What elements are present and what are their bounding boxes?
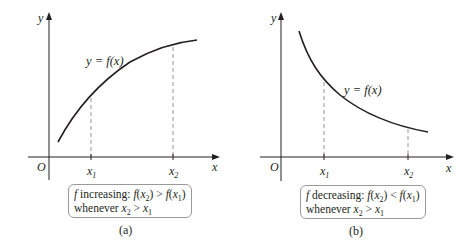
origin-label-b: O (270, 161, 279, 173)
caption-b: (b) (349, 225, 363, 237)
condition-box-a: f increasing: f(x2) > f(x1) whenever x2 … (68, 184, 192, 218)
x-axis-label-a: x (212, 161, 217, 173)
y-axis-label-a: y (38, 12, 43, 24)
decreasing-curve (299, 31, 428, 132)
increasing-curve (58, 40, 197, 142)
condition-box-b: f decreasing: f(x2) < f(x1) whenever x2 … (300, 185, 426, 219)
curve-label-b: y = f(x) (344, 84, 382, 97)
tick-x1-label-a: x1 (87, 165, 96, 177)
caption-a: (a) (119, 224, 132, 236)
tick-x2-label-b: x2 (404, 165, 413, 177)
origin-label-a: O (37, 161, 46, 173)
panel-a-graph (28, 16, 216, 180)
x-axis-label-b: x (446, 162, 451, 174)
y-axis-label-b: y (271, 12, 276, 24)
curve-label-a: y = f(x) (86, 55, 124, 68)
tick-x1-label-b: x1 (320, 165, 329, 177)
tick-x2-label-a: x2 (169, 165, 178, 177)
panel-b-graph (260, 16, 450, 181)
